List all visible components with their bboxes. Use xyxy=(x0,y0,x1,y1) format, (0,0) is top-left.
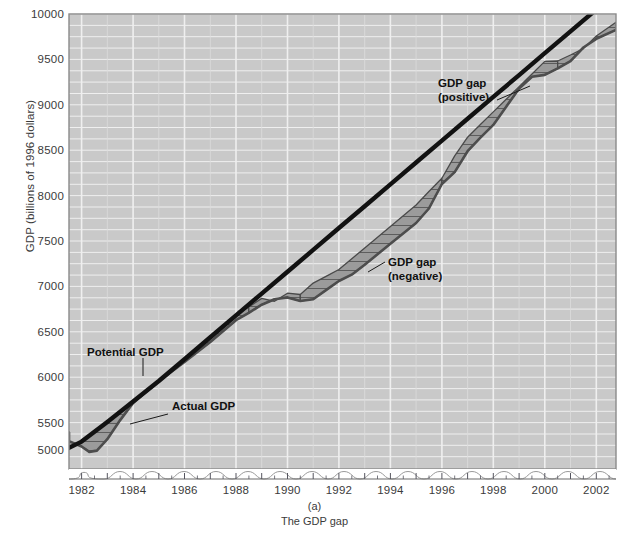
x-tick-label: 1996 xyxy=(429,484,455,496)
x-tick-label: 1994 xyxy=(377,484,403,496)
x-tick-label: 1992 xyxy=(326,484,352,496)
annotation-gap-positive: GDP gap (positive) xyxy=(438,77,489,104)
figure-caption-title: The GDP gap xyxy=(0,515,629,527)
x-tick-label: 2002 xyxy=(583,484,609,496)
annotation-gap-negative-line1: GDP gap xyxy=(388,256,442,270)
vertical-gridlines xyxy=(82,14,597,469)
x-tick-label: 1982 xyxy=(68,484,94,496)
x-tick-label: 1986 xyxy=(171,484,197,496)
x-tick-label: 2000 xyxy=(532,484,558,496)
x-tick-label: 1988 xyxy=(223,484,249,496)
annotation-gap-negative-line2: (negative) xyxy=(388,270,442,284)
figure-panel-label: (a) xyxy=(0,500,629,512)
x-tick-label: 1998 xyxy=(480,484,506,496)
x-tick-label: 1990 xyxy=(274,484,300,496)
x-axis-ticks xyxy=(69,473,616,479)
annotation-actual-gdp: Actual GDP xyxy=(172,400,235,414)
annotation-potential-gdp: Potential GDP xyxy=(87,346,164,360)
annotation-gap-negative: GDP gap (negative) xyxy=(388,256,442,283)
axis-break-band xyxy=(69,469,616,479)
gdp-gap-figure: GDP (billions of 1996 dollars) 10000 950… xyxy=(0,0,629,537)
plot-area xyxy=(0,0,629,537)
annotation-gap-positive-line1: GDP gap xyxy=(438,77,489,91)
annotation-gap-positive-line2: (positive) xyxy=(438,91,489,105)
x-tick-label: 1984 xyxy=(120,484,146,496)
